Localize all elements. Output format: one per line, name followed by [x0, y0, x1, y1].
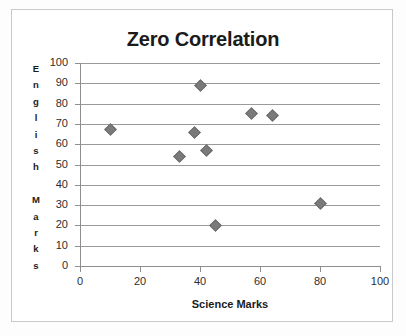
y-tick-label-40: 40: [40, 179, 68, 190]
chart-title: Zero Correlation: [12, 28, 394, 51]
gridline-y-70: [80, 124, 380, 125]
y-tick-90: [75, 83, 81, 84]
data-point: [194, 79, 207, 92]
y-tick-label-70: 70: [40, 118, 68, 129]
gridline-y-10: [80, 246, 380, 247]
y-tick-label-20: 20: [40, 219, 68, 230]
chart-frame: Zero Correlation EnglishMarks Science Ma…: [11, 9, 393, 322]
gridline-y-20: [80, 225, 380, 226]
data-point: [245, 107, 258, 120]
y-tick-label-30: 30: [40, 199, 68, 210]
x-tick-label-60: 60: [243, 276, 277, 287]
x-tick-label-40: 40: [183, 276, 217, 287]
y-tick-70: [75, 124, 81, 125]
x-axis-title: Science Marks: [80, 298, 380, 310]
y-tick-label-100: 100: [40, 57, 68, 68]
x-tick-100: [380, 267, 381, 272]
data-point: [188, 126, 201, 139]
gridline-y-100: [80, 63, 380, 64]
gridline-y-30: [80, 205, 380, 206]
data-point: [104, 124, 117, 137]
gridline-y-80: [80, 104, 380, 105]
gridline-y-40: [80, 185, 380, 186]
gridline-y-60: [80, 144, 380, 145]
y-tick-label-10: 10: [40, 240, 68, 251]
data-point: [200, 144, 213, 157]
y-tick-label-90: 90: [40, 77, 68, 88]
data-point: [209, 219, 222, 232]
y-tick-80: [75, 104, 81, 105]
y-tick-20: [75, 225, 81, 226]
screenshot-root: Zero Correlation EnglishMarks Science Ma…: [0, 0, 406, 336]
x-tick-20: [140, 267, 141, 272]
gridline-y-50: [80, 165, 380, 166]
data-point: [173, 150, 186, 163]
y-tick-label-80: 80: [40, 98, 68, 109]
plot-area: [80, 63, 380, 266]
y-tick-10: [75, 246, 81, 247]
x-tick-80: [320, 267, 321, 272]
x-axis-line: [80, 266, 381, 267]
x-tick-60: [260, 267, 261, 272]
y-tick-label-0: 0: [40, 260, 68, 271]
x-tick-label-100: 100: [363, 276, 397, 287]
y-tick-30: [75, 205, 81, 206]
data-point: [314, 197, 327, 210]
y-tick-40: [75, 185, 81, 186]
y-tick-label-60: 60: [40, 138, 68, 149]
y-tick-60: [75, 144, 81, 145]
x-tick-40: [200, 267, 201, 272]
y-tick-100: [75, 63, 81, 64]
x-tick-label-80: 80: [303, 276, 337, 287]
x-tick-label-20: 20: [123, 276, 157, 287]
data-point: [266, 109, 279, 122]
y-tick-50: [75, 165, 81, 166]
x-tick-label-0: 0: [63, 276, 97, 287]
y-tick-label-50: 50: [40, 159, 68, 170]
x-tick-0: [80, 267, 81, 272]
gridline-y-90: [80, 83, 380, 84]
